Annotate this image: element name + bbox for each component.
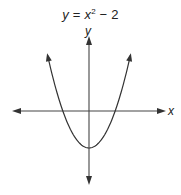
y-axis-label: y (84, 24, 92, 38)
parabola-plot: x y (0, 0, 181, 195)
x-axis-left-arrow-icon (12, 108, 21, 114)
curve-left-arrow-icon (46, 53, 52, 61)
curve-right-arrow-icon (126, 53, 132, 61)
y-axis-down-arrow-icon (86, 176, 92, 185)
x-axis-right-arrow-icon (157, 108, 166, 114)
x-axis-label: x (167, 104, 175, 118)
